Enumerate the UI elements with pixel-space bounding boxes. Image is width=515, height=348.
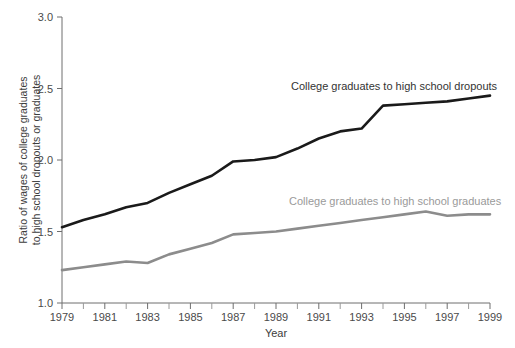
chart-container: 1.01.52.02.53.0 197919811983198519871989… [0,0,515,348]
x-tick-label: 1979 [50,311,74,323]
x-tick-label: 1989 [264,311,288,323]
x-tick-label: 1987 [221,311,245,323]
series-label-dropouts: College graduates to high school dropout… [291,80,498,92]
y-axis-title-line1: Ratio of wages of college graduates [17,77,29,244]
x-tick-label: 1999 [478,311,502,323]
x-tick-label: 1997 [435,311,459,323]
x-tick-label: 1983 [135,311,159,323]
x-axis-title: Year [265,327,288,339]
x-tick-label: 1985 [178,311,202,323]
x-tick-label: 1981 [93,311,117,323]
series-label-graduates: College graduates to high school graduat… [289,195,502,207]
line-chart: 1.01.52.02.53.0 197919811983198519871989… [0,0,515,348]
y-axis-title-line2: to high school dropouts or graduates [30,75,42,245]
y-axis-title: Ratio of wages of college graduates to h… [17,75,42,245]
chart-background [0,0,515,348]
x-tick-label: 1991 [307,311,331,323]
y-tick-label: 3.0 [38,11,53,23]
x-tick-label: 1995 [392,311,416,323]
y-tick-label: 1.0 [38,297,53,309]
x-tick-label: 1993 [349,311,373,323]
